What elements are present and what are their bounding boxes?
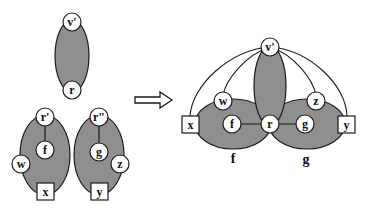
node-z-left: z (111, 155, 129, 173)
node-label: g (302, 117, 308, 131)
node-f-left: f (36, 141, 54, 159)
node-f-right: f (223, 115, 241, 133)
node-z-right: z (307, 92, 325, 110)
diagram-canvas: v' r r' f w x r" (0, 0, 369, 216)
node-label: r (69, 83, 75, 97)
node-label: y (344, 118, 350, 132)
left-top-component: v' r (55, 13, 89, 99)
node-label: r (267, 117, 273, 131)
node-label: v' (265, 40, 274, 54)
node-g-right: g (296, 115, 314, 133)
node-g-left: g (90, 143, 108, 161)
left-component-g: r" g z y (74, 108, 129, 200)
node-label: r" (93, 110, 105, 124)
terminal-y-left: y (91, 183, 108, 200)
terminal-x-right: x (182, 116, 199, 133)
node-r-double-prime: r" (90, 108, 108, 126)
node-v-prime-right: v' (261, 38, 279, 56)
node-label: z (117, 157, 123, 171)
node-w-right: w (214, 92, 232, 110)
left-component-f: r' f w x (12, 108, 70, 200)
node-r-left: r (63, 81, 81, 99)
node-label: x (188, 118, 194, 132)
node-label: w (219, 94, 228, 108)
node-label: v' (67, 15, 76, 29)
region-top-merged (254, 46, 286, 126)
terminal-y-right: y (338, 116, 355, 133)
node-r-right: r (261, 115, 279, 133)
terminal-x-left: x (37, 183, 54, 200)
caption-f: f (231, 151, 236, 166)
node-label: y (97, 185, 103, 199)
node-label: w (17, 157, 26, 171)
node-label: z (313, 94, 319, 108)
node-label: x (43, 185, 49, 199)
node-v-prime-left: v' (63, 13, 81, 31)
node-r-prime: r' (36, 108, 54, 126)
node-w-left: w (12, 155, 30, 173)
caption-g: g (303, 152, 310, 167)
node-label: g (96, 145, 102, 159)
node-label: r' (41, 110, 50, 124)
right-arrow-icon (135, 92, 172, 108)
right-merged-graph: v' w z f r g x y f g (182, 38, 355, 167)
